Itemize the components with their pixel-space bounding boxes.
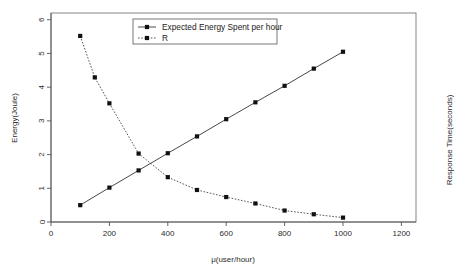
data-point — [78, 203, 82, 207]
data-point — [224, 117, 228, 121]
y-axis-title: Energy(Joule) — [10, 93, 19, 143]
data-point — [107, 186, 111, 190]
legend-marker — [145, 25, 149, 29]
y-tick-label: 0 — [38, 219, 47, 224]
secondary-y-axis-title: Response Time(seconds) — [445, 94, 454, 185]
data-point — [93, 75, 97, 79]
x-tick-label: 400 — [161, 229, 175, 238]
chart-container: 020040060080010001200 0123456 Expected E… — [0, 0, 467, 276]
x-axis-title: μ(user/hour) — [211, 255, 255, 264]
data-point — [312, 67, 316, 71]
data-point — [137, 168, 141, 172]
chart-legend: Expected Energy Spent per hourR — [133, 19, 283, 44]
y-tick-label: 5 — [38, 51, 47, 56]
x-tick-label: 1000 — [334, 229, 352, 238]
x-tick-label: 800 — [278, 229, 292, 238]
data-point — [283, 84, 287, 88]
data-point — [78, 34, 82, 38]
legend-marker — [145, 36, 149, 40]
legend-label: R — [162, 33, 168, 43]
data-point — [341, 50, 345, 54]
data-point — [195, 188, 199, 192]
y-tick-label: 2 — [38, 152, 47, 157]
y-tick-label: 1 — [38, 186, 47, 191]
data-point — [166, 175, 170, 179]
y-tick-label: 6 — [38, 17, 47, 22]
data-point — [107, 101, 111, 105]
data-point — [137, 151, 141, 155]
data-point — [283, 208, 287, 212]
data-point — [166, 151, 170, 155]
x-tick-label: 200 — [103, 229, 117, 238]
line-chart: 020040060080010001200 0123456 Expected E… — [0, 0, 467, 276]
data-point — [224, 195, 228, 199]
data-point — [341, 216, 345, 220]
y-tick-label: 4 — [38, 84, 47, 89]
x-tick-label: 600 — [220, 229, 234, 238]
y-tick-label: 3 — [38, 118, 47, 123]
x-tick-label: 0 — [49, 229, 54, 238]
data-point — [312, 212, 316, 216]
x-tick-label: 1200 — [393, 229, 411, 238]
legend-label: Expected Energy Spent per hour — [162, 22, 283, 32]
data-point — [253, 100, 257, 104]
data-point — [253, 201, 257, 205]
data-point — [195, 134, 199, 138]
